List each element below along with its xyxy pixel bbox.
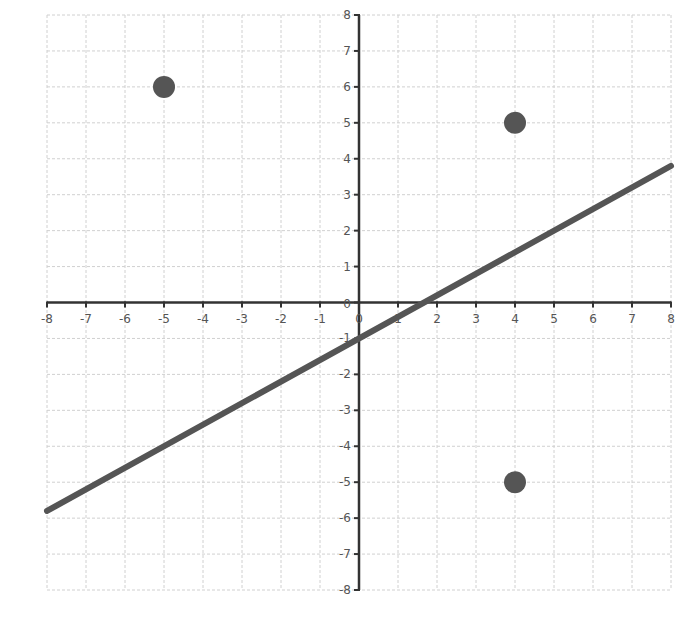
y-tick-label: -4	[339, 439, 351, 453]
x-tick-label: -2	[275, 312, 287, 326]
y-tick-label: -7	[339, 547, 351, 561]
x-tick-label: -8	[41, 312, 53, 326]
x-tick-label: -6	[119, 312, 131, 326]
y-tick-label: 3	[343, 188, 351, 202]
x-tick-label: 4	[511, 312, 519, 326]
axes	[47, 15, 671, 590]
data-point	[504, 471, 526, 493]
x-tick-label: 7	[628, 312, 636, 326]
y-tick-label: 5	[343, 116, 351, 130]
coordinate-plane-chart: -8-7-6-5-4-3-2-1012345678-8-7-6-5-4-3-2-…	[0, 0, 695, 635]
x-tick-label: -7	[80, 312, 92, 326]
y-tick-label: 0	[343, 297, 351, 311]
y-tick-label: -6	[339, 511, 351, 525]
x-tick-label: 2	[433, 312, 441, 326]
data-point	[504, 112, 526, 134]
y-tick-label: 6	[343, 80, 351, 94]
x-tick-label: 3	[472, 312, 480, 326]
y-tick-label: -3	[339, 403, 351, 417]
y-tick-label: -8	[339, 583, 351, 597]
x-tick-label: -1	[314, 312, 326, 326]
x-tick-label: 0	[355, 312, 363, 326]
x-tick-label: -5	[158, 312, 170, 326]
y-tick-label: 8	[343, 8, 351, 22]
y-tick-label: 7	[343, 44, 351, 58]
x-tick-label: -3	[236, 312, 248, 326]
x-tick-label: 8	[667, 312, 675, 326]
x-tick-label: -4	[197, 312, 209, 326]
y-tick-label: 2	[343, 224, 351, 238]
y-tick-label: 4	[343, 152, 351, 166]
x-tick-label: 5	[550, 312, 558, 326]
y-tick-label: 1	[343, 260, 351, 274]
y-tick-label: -5	[339, 475, 351, 489]
y-tick-label: -2	[339, 367, 351, 381]
data-point	[153, 76, 175, 98]
x-tick-label: 6	[589, 312, 597, 326]
